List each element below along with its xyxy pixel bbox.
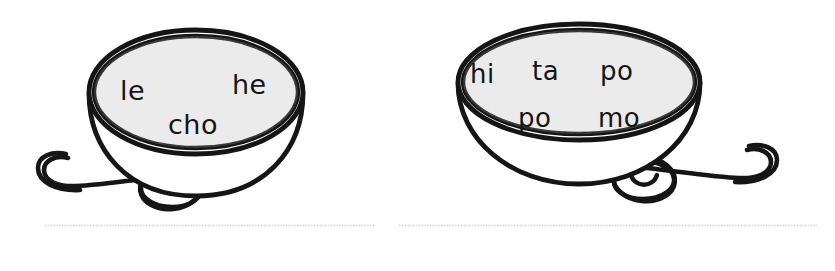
exercise-item: le he cho [0, 0, 418, 271]
syllable-po-top: po [600, 56, 633, 86]
bowl-figure-hipopotamo: hi ta po po mo [417, 0, 835, 225]
syllable-cho: cho [168, 109, 218, 140]
syllable-le: le [120, 75, 145, 106]
bowl-figure-leche: le he cho [0, 0, 418, 225]
syllable-mo: mo [598, 103, 640, 133]
writing-line[interactable] [45, 224, 375, 227]
syllable-hi: hi [470, 59, 495, 89]
exercise-item: hi ta po po mo [417, 0, 835, 271]
worksheet-page: le he cho [0, 0, 835, 271]
syllable-he: he [232, 69, 267, 100]
syllable-ta: ta [532, 56, 559, 86]
syllable-po-bottom: po [518, 103, 551, 133]
writing-line[interactable] [399, 224, 817, 227]
